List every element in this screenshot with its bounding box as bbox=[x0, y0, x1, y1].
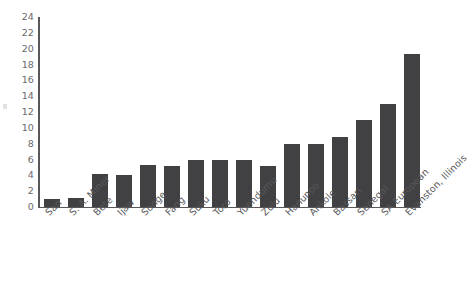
x-axis-tick-label: Toro bbox=[211, 196, 233, 218]
x-axis-tick-label: Ijaw bbox=[115, 196, 137, 218]
x-axis-tick-label: San bbox=[43, 197, 64, 218]
x-axis-tick-label: Songe bbox=[139, 189, 168, 218]
x-axis-tick-label: Suku bbox=[187, 193, 212, 218]
